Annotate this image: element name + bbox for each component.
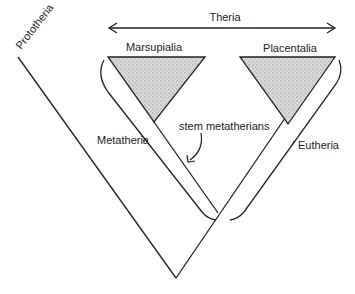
metatheria-branch [154, 122, 218, 213]
marsupialia-clade-triangle [108, 57, 205, 122]
placentalia-label: Placentalia [263, 42, 318, 54]
eutheria-label: Eutheria [298, 139, 340, 151]
metatheria-label: Metatheria [97, 134, 150, 146]
stem-metatherians-arrow [190, 133, 202, 160]
eutheria-tick [292, 141, 294, 145]
phylogeny-diagram: Prototheria Theria Marsupialia Placental… [0, 0, 355, 294]
phylogeny-svg: Prototheria Theria Marsupialia Placental… [0, 0, 355, 294]
stem-metatherians-label: stem metatherians [179, 120, 270, 132]
prototheria-label: Prototheria [13, 1, 56, 51]
marsupialia-label: Marsupialia [126, 41, 183, 53]
placentalia-clade-triangle [240, 57, 335, 124]
theria-label: Theria [209, 11, 241, 23]
